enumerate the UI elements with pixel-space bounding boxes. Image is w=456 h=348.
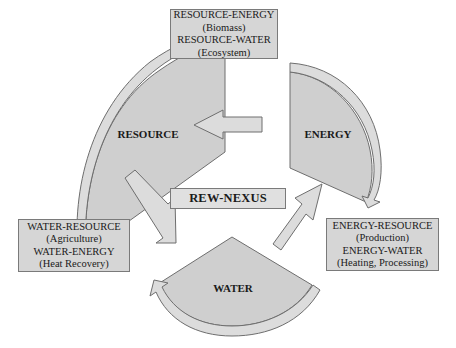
- rew-nexus-label: REW-NEXUS: [170, 188, 286, 209]
- energy-interactions-box: ENERGY-RESOURCE (Production) ENERGY-WATE…: [326, 218, 439, 271]
- water-node: WATER: [150, 237, 320, 336]
- box-line: (Ecosystem): [171, 47, 277, 60]
- resource-interactions-box: RESOURCE-ENERGY (Biomass) RESOURCE-WATER…: [170, 9, 278, 59]
- box-line: WATER-RESOURCE: [19, 221, 129, 234]
- energy-node: ENERGY: [290, 63, 381, 208]
- box-line: (Heat Recovery): [19, 258, 129, 271]
- box-line: (Production): [327, 232, 438, 245]
- box-line: ENERGY-RESOURCE: [327, 220, 438, 233]
- water-label: WATER: [213, 282, 254, 294]
- box-line: (Heating, Processing): [327, 257, 438, 270]
- box-line: RESOURCE-WATER: [171, 34, 277, 47]
- box-line: RESOURCE-ENERGY: [171, 9, 277, 22]
- box-line: (Agriculture): [19, 233, 129, 246]
- box-line: ENERGY-WATER: [327, 245, 438, 258]
- water-interactions-box: WATER-RESOURCE (Agriculture) WATER-ENERG…: [18, 219, 130, 272]
- resource-label: RESOURCE: [117, 128, 178, 140]
- energy-label: ENERGY: [304, 128, 351, 140]
- box-line: (Biomass): [171, 22, 277, 35]
- box-line: WATER-ENERGY: [19, 246, 129, 259]
